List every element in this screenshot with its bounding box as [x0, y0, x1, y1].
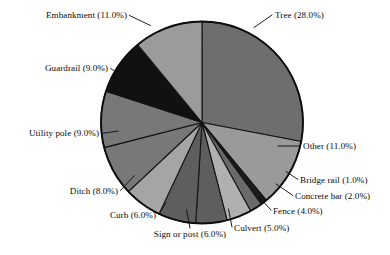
slice-label-ditch: Ditch (8.0%): [70, 186, 118, 196]
slice-label-culvert: Culvert (5.0%): [234, 223, 289, 233]
slice-label-curb: Curb (6.0%): [110, 210, 156, 220]
leader-line-embankment: [130, 16, 151, 26]
slice-label-concrete-bar: Concrete bar (2.0%): [295, 191, 370, 201]
slice-label-embankment: Embankment (11.0%): [46, 10, 127, 20]
pie-slices-group: [101, 22, 303, 224]
slice-label-bridge-rail: Bridge rail (1.0%): [300, 175, 368, 185]
pie-chart-figure: Embankment (11.0%) Tree (28.0%) Guardrai…: [0, 0, 390, 255]
slice-label-tree: Tree (28.0%): [275, 10, 324, 20]
pie-chart-svg: Embankment (11.0%) Tree (28.0%) Guardrai…: [0, 0, 390, 255]
slice-label-fence: Fence (4.0%): [273, 206, 323, 216]
slice-label-sign-or-post: Sign or post (6.0%): [154, 229, 226, 239]
slice-label-utility-pole: Utility pole (9.0%): [29, 128, 99, 138]
leader-line-tree: [254, 15, 272, 28]
slice-label-guardrail: Guardrail (9.0%): [45, 63, 108, 73]
pie-slice-tree[interactable]: [202, 22, 303, 142]
slice-label-other: Other (11.0%): [303, 141, 356, 151]
